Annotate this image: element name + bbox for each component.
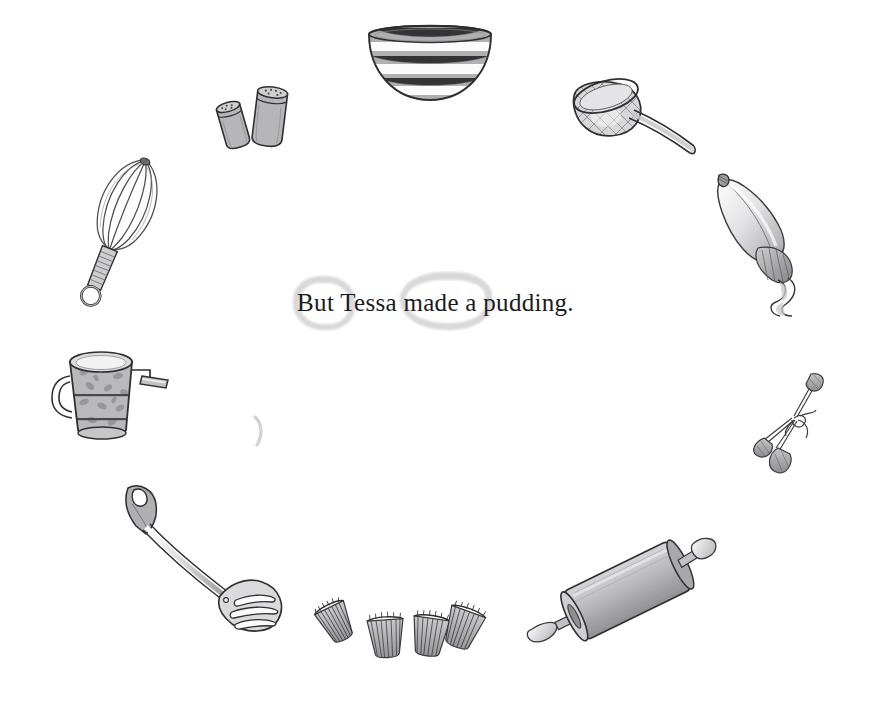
- caption-block: But Tessa made a pudding.: [0, 290, 871, 315]
- piping-nozzles-icon: [748, 372, 838, 482]
- sieve-icon: [566, 76, 706, 156]
- illustration-page: But Tessa made a pudding.: [0, 0, 871, 722]
- salt-pepper-shakers-icon: [208, 76, 304, 152]
- cupcake-cases-icon: [310, 598, 486, 664]
- page-title: But Tessa made a pudding.: [297, 290, 574, 315]
- ring-stain-partial: [252, 415, 266, 447]
- flour-sifter-icon: [46, 344, 172, 450]
- mixing-bowl-icon: [365, 22, 495, 104]
- rolling-pin-icon: [518, 526, 734, 654]
- slotted-turner-icon: [110, 478, 300, 638]
